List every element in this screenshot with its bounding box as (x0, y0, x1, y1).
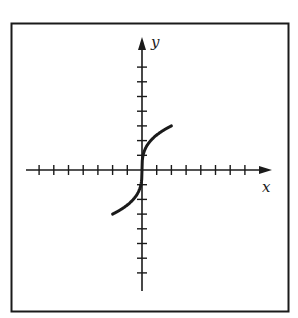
x-axis-arrow-icon (259, 166, 272, 174)
frame-border (12, 24, 289, 312)
x-axis-label: x (262, 178, 271, 196)
chart: x y (0, 0, 298, 318)
y-axis-label: y (150, 33, 160, 51)
y-axis-arrow-icon (138, 37, 146, 50)
